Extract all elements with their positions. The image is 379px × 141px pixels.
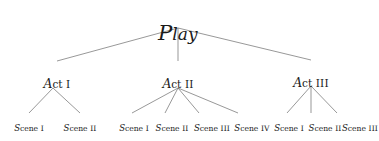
node-scene-4-rest: cene xyxy=(161,124,179,133)
node-scene-1: Scene I xyxy=(14,123,44,133)
node-scene-9: Scene III xyxy=(342,123,378,133)
node-act-2: Act II xyxy=(162,76,193,91)
node-scene-4: Scene II xyxy=(156,123,189,133)
node-scene-5-roman: III xyxy=(221,124,230,133)
node-scene-8-roman: II xyxy=(335,124,341,133)
node-act-1-rest: ct xyxy=(52,78,62,90)
node-scene-4-roman: II xyxy=(182,124,188,133)
node-scene-1-roman: I xyxy=(41,124,44,133)
node-scene-3: Scene I xyxy=(119,123,149,133)
node-act-2-lead: A xyxy=(162,76,171,91)
node-act-3-roman: III xyxy=(316,77,329,89)
edge-act3-scene-1 xyxy=(287,86,311,113)
edge-act1-scene-1 xyxy=(29,88,53,113)
node-act-3-rest: ct xyxy=(302,77,312,89)
node-scene-7-rest: cene xyxy=(280,124,298,133)
node-play-rest: lay xyxy=(172,24,198,44)
node-act-3: Act III xyxy=(293,75,329,90)
node-scene-6-rest: cene xyxy=(240,124,258,133)
node-scene-2-rest: cene xyxy=(69,124,87,133)
node-act-3-lead: A xyxy=(293,75,302,90)
node-scene-5: Scene III xyxy=(194,123,230,133)
node-act-1: Act I xyxy=(44,76,71,91)
node-scene-8: Scene II xyxy=(309,123,342,133)
node-act-1-roman: I xyxy=(66,78,70,90)
node-scene-6-roman: IV xyxy=(261,124,270,133)
node-scene-7-roman: I xyxy=(301,124,304,133)
node-scene-2-roman: II xyxy=(90,124,96,133)
node-scene-6: Scene IV xyxy=(234,123,269,133)
node-scene-3-rest: cene xyxy=(125,124,143,133)
node-scene-9-rest: cene xyxy=(348,124,366,133)
node-act-2-roman: II xyxy=(185,78,194,90)
node-act-1-lead: A xyxy=(44,76,53,91)
node-scene-1-rest: cene xyxy=(20,124,38,133)
node-scene-3-roman: I xyxy=(146,124,149,133)
node-scene-9-roman: III xyxy=(369,124,378,133)
edge-act2-scene-3 xyxy=(178,88,199,113)
edge-act2-scene-4 xyxy=(178,88,238,113)
edge-act1-scene-2 xyxy=(53,88,80,113)
node-scene-5-rest: cene xyxy=(200,124,218,133)
edge-act3-scene-3 xyxy=(311,86,337,113)
node-play: Play xyxy=(158,20,198,45)
play-structure-tree-diagram: Play Act I Act II Act III Scene IScene I… xyxy=(0,0,379,141)
node-play-lead: P xyxy=(158,20,172,45)
edge-act2-scene-1 xyxy=(132,88,178,113)
node-act-2-rest: ct xyxy=(171,78,181,90)
node-scene-2: Scene II xyxy=(64,123,97,133)
node-scene-8-rest: cene xyxy=(314,124,332,133)
node-scene-7: Scene I xyxy=(274,123,304,133)
